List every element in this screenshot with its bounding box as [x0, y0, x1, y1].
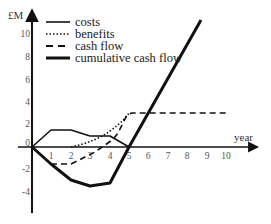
series-costs	[32, 130, 129, 147]
y-tick-label: 6	[25, 75, 30, 85]
legend-label: cumulative cash flow	[75, 51, 182, 65]
y-tick-label: 8	[25, 52, 30, 62]
y-tick-label: -2	[22, 164, 30, 174]
x-tick-label: 8	[185, 151, 190, 161]
y-tick-label: 2	[25, 119, 30, 129]
y-tick-label: 10	[21, 29, 31, 39]
cash-flow-chart: £M year 10 8 6 4 2 0 -2 -4 1 2 3 4 5 6 7…	[0, 0, 271, 224]
y-tick-label: -4	[22, 187, 30, 197]
x-tick-label: 3	[88, 151, 93, 161]
x-axis-label: year	[234, 131, 253, 143]
x-tick-label: 9	[205, 151, 210, 161]
x-tick-label: 6	[146, 151, 151, 161]
x-tick-label: 10	[221, 151, 231, 161]
x-tick-labels: 1 2 3 4 5 6 7 8 9 10	[49, 151, 231, 161]
x-tick-label: 1	[49, 151, 54, 161]
x-tick-label: 2	[69, 151, 74, 161]
y-tick-labels: 10 8 6 4 2 0 -2 -4	[21, 29, 31, 197]
series-cash-flow	[51, 113, 226, 164]
x-tick-label: 4	[108, 151, 113, 161]
axes: £M year 10 8 6 4 2 0 -2 -4 1 2 3 4 5 6 7…	[8, 9, 257, 213]
legend-item-cumulative-cash-flow: cumulative cash flow	[46, 51, 182, 65]
y-tick-label: 4	[25, 97, 30, 107]
x-tick-label: 7	[166, 151, 171, 161]
y-tick-label: 0	[25, 138, 30, 148]
series	[32, 20, 226, 186]
y-axis-label: £M	[8, 9, 24, 21]
legend: costs benefits cash flow cumulative cash…	[46, 15, 182, 65]
